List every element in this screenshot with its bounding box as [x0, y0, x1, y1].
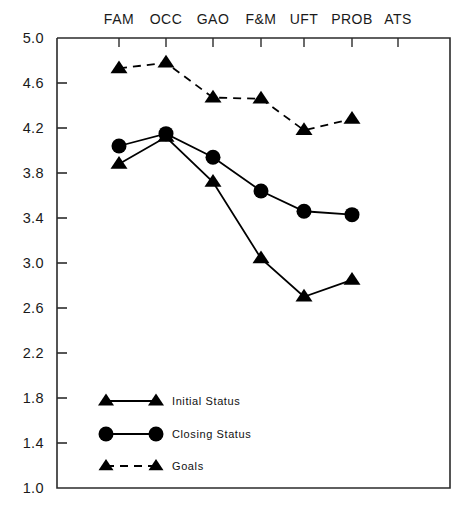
legend-circle-icon-closing-right — [149, 427, 164, 442]
data-point-closing-status-0 — [112, 139, 127, 154]
series-goals — [111, 55, 361, 135]
legend-glyphs — [98, 394, 164, 471]
legend-triangle-icon-initial-right — [148, 394, 164, 406]
chart-container: FAM OCC GAO F&M UFT PROB ATS 5.0 4.6 4.2… — [0, 0, 464, 508]
data-point-closing-status-3 — [254, 184, 269, 199]
legend-triangle-icon-goals-right — [149, 459, 164, 470]
legend-circle-icon-closing-left — [99, 427, 114, 442]
y-axis-ticks — [57, 83, 67, 443]
legend-triangle-icon-goals-left — [99, 459, 114, 470]
data-point-goals-3 — [253, 91, 270, 104]
data-point-closing-status-4 — [297, 204, 312, 219]
data-point-initial-status-5 — [344, 272, 361, 285]
series-line-initial-status — [119, 137, 352, 297]
data-point-goals-2 — [205, 90, 222, 103]
series-line-goals — [119, 63, 352, 131]
data-point-goals-1 — [158, 55, 175, 68]
data-point-closing-status-5 — [345, 207, 360, 222]
data-point-closing-status-2 — [206, 150, 221, 165]
data-point-initial-status-0 — [111, 156, 128, 169]
plot-area — [0, 0, 464, 508]
legend-triangle-icon-initial-left — [98, 394, 114, 406]
series-closing-status — [112, 126, 360, 222]
series-line-closing-status — [119, 134, 352, 215]
x-axis-ticks — [119, 38, 398, 47]
series-initial-status — [111, 129, 361, 302]
data-point-goals-5 — [344, 111, 361, 124]
data-point-initial-status-3 — [253, 251, 270, 264]
